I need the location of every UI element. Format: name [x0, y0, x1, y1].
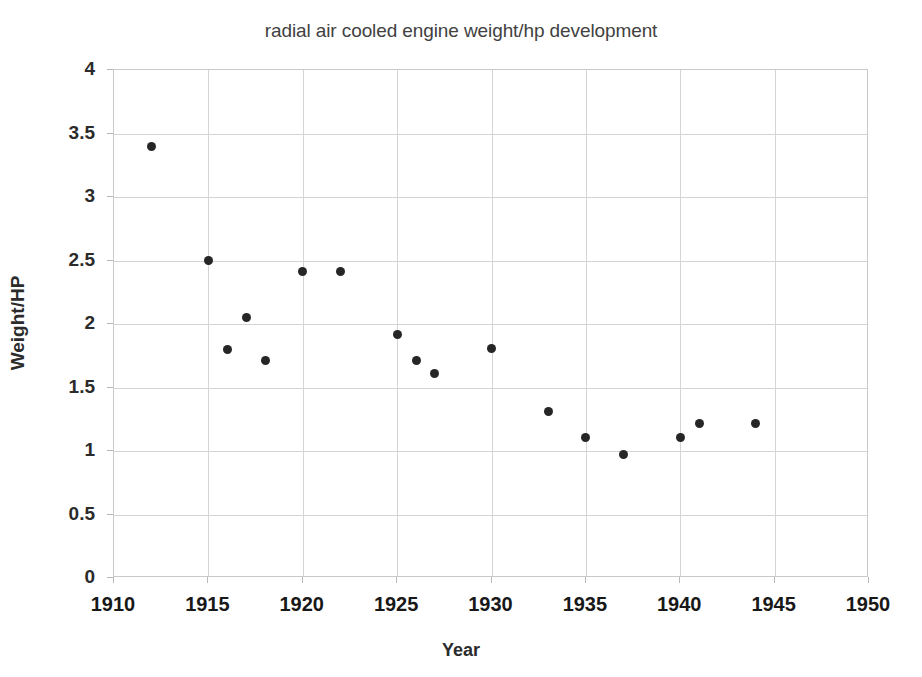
chart-title: radial air cooled engine weight/hp devel… — [0, 20, 922, 42]
data-point — [242, 313, 251, 322]
x-tick-mark — [302, 577, 303, 583]
gridline-vertical — [208, 70, 209, 576]
data-point — [204, 256, 213, 265]
y-tick-mark — [107, 450, 113, 451]
y-tick-mark — [107, 323, 113, 324]
y-tick-mark — [107, 69, 113, 70]
x-tick-mark — [774, 577, 775, 583]
data-point — [261, 356, 270, 365]
x-tick-mark — [585, 577, 586, 583]
gridline-horizontal — [114, 451, 867, 452]
gridline-horizontal — [114, 261, 867, 262]
gridline-horizontal — [114, 515, 867, 516]
gridline-horizontal — [114, 324, 867, 325]
x-axis-label: Year — [0, 640, 922, 661]
y-axis-label: Weight/HP — [7, 276, 29, 371]
y-tick-label: 1 — [35, 439, 95, 461]
y-tick-mark — [107, 196, 113, 197]
y-tick-label: 2 — [35, 312, 95, 334]
y-tick-label: 3 — [35, 185, 95, 207]
data-point — [751, 419, 760, 428]
y-tick-label: 4 — [35, 58, 95, 80]
data-point — [487, 344, 496, 353]
data-point — [695, 419, 704, 428]
data-point — [619, 450, 628, 459]
gridline-vertical — [397, 70, 398, 576]
y-tick-mark — [107, 514, 113, 515]
y-tick-mark — [107, 387, 113, 388]
y-tick-label: 0 — [35, 566, 95, 588]
y-tick-label: 2.5 — [35, 249, 95, 271]
gridline-vertical — [680, 70, 681, 576]
gridline-vertical — [492, 70, 493, 576]
data-point — [581, 433, 590, 442]
data-point — [393, 330, 402, 339]
y-tick-label: 3.5 — [35, 122, 95, 144]
y-tick-mark — [107, 260, 113, 261]
scatter-chart: radial air cooled engine weight/hp devel… — [0, 0, 922, 677]
gridline-vertical — [303, 70, 304, 576]
y-tick-label: 0.5 — [35, 503, 95, 525]
data-point — [676, 433, 685, 442]
data-point — [298, 267, 307, 276]
data-point — [430, 369, 439, 378]
x-tick-mark — [491, 577, 492, 583]
y-tick-mark — [107, 133, 113, 134]
data-point — [336, 267, 345, 276]
x-tick-label: 1950 — [813, 593, 922, 616]
gridline-horizontal — [114, 197, 867, 198]
gridline-vertical — [775, 70, 776, 576]
y-tick-label: 1.5 — [35, 376, 95, 398]
gridline-horizontal — [114, 134, 867, 135]
gridline-vertical — [586, 70, 587, 576]
data-point — [223, 345, 232, 354]
gridline-horizontal — [114, 388, 867, 389]
data-point — [544, 407, 553, 416]
data-point — [147, 142, 156, 151]
x-tick-mark — [113, 577, 114, 583]
x-tick-mark — [868, 577, 869, 583]
x-tick-mark — [207, 577, 208, 583]
data-point — [412, 356, 421, 365]
x-tick-mark — [679, 577, 680, 583]
x-tick-mark — [396, 577, 397, 583]
plot-area — [113, 69, 868, 577]
